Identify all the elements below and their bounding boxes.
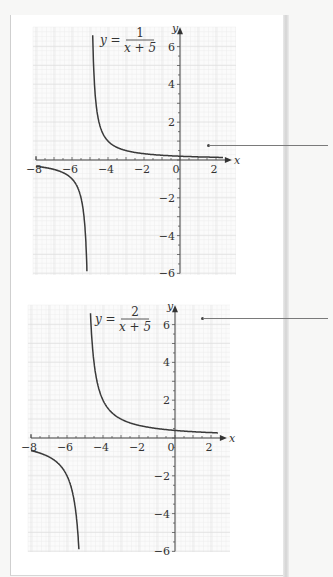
annotation-line-1 — [209, 145, 328, 146]
x-tick-label: −4 — [93, 441, 109, 454]
y-tick-label: 4 — [163, 356, 170, 369]
grid — [28, 305, 230, 552]
x-tick-label: 2 — [206, 441, 213, 454]
y-tick-label: −6 — [154, 545, 170, 558]
y-tick-label: −2 — [154, 470, 170, 483]
y-tick-label: −4 — [154, 508, 170, 521]
chart-reciprocal-2-over-x-plus-5: −8−6−4−202x642−2−4−6yy =2x + 5 — [0, 0, 333, 577]
x-tick-label: −2 — [129, 441, 145, 454]
x-tick-label: −6 — [57, 441, 73, 454]
equation-numerator: 2 — [131, 305, 139, 319]
x-axis-label: x — [229, 432, 236, 445]
equation-denominator: x + 5 — [119, 320, 151, 334]
y-tick-label: 6 — [163, 319, 170, 332]
equation-lhs: y = — [94, 312, 116, 326]
y-axis-label: y — [166, 300, 174, 313]
annotation-line-2 — [203, 318, 328, 319]
y-tick-label: 2 — [163, 394, 170, 407]
grid-background — [28, 305, 230, 552]
